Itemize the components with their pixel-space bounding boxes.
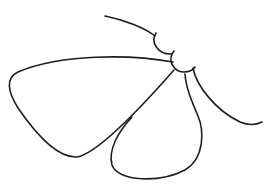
head [154, 33, 174, 54]
moth-drawing [0, 0, 279, 196]
forewing [9, 57, 174, 157]
leg [193, 68, 262, 124]
thorax [171, 54, 195, 72]
antenna [105, 16, 155, 36]
moth-illustration [0, 0, 279, 196]
